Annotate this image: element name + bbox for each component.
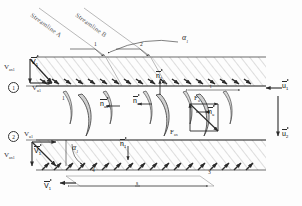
v-ax1-bottom-label: Vax1 [4,152,15,160]
v-u1-top-label: Vu1 [32,85,41,93]
cascade-pitch-construction [66,176,214,186]
force-u-label: Fu [194,95,200,103]
v-ax1-top-label: Vax1 [4,64,15,72]
station-leader-lines [70,49,148,56]
station-marker-1: 1 [8,82,19,93]
alpha1-top-label: α1 [182,34,188,44]
blade-number-1-label: 1 [62,96,65,102]
v-u1-bottom-label: Vu1 [24,131,33,139]
diagram-vector-layer [0,0,302,206]
pitch-s-label: s [136,181,138,187]
station-marker-2: 2 [8,131,19,142]
n-ax-label: nax [100,100,108,109]
blade-speed-vectors [266,88,282,136]
diagram-canvas: Streamline A Streamline B 1 2 α1 1 2 Vax… [0,0,302,206]
v1-outlet-label: V1 [44,182,51,191]
alpha1-angle-arc-top [110,40,178,52]
blade-speed-u2-label: u2 [282,130,288,139]
n-u-right-label: nu [208,108,214,117]
chord-t-label: t [210,84,212,90]
n1-bottom-label: n1 [120,140,126,149]
v1-top-label: V1 [31,58,38,67]
blade-speed-u1-label: u1 [282,82,288,91]
alpha1-bottom-label: α1 [72,144,78,154]
station-2-top-label: 2 [140,42,143,48]
station-3-label: 3 [208,170,211,176]
station-1-top-label: 1 [94,42,97,48]
v1-bottom-label: V1 [34,147,41,156]
station-4-label: 4 [92,168,95,174]
n-u-label: nu [133,97,139,106]
force-ax-label: Fax [170,129,178,137]
n1-top-label: n1 [156,72,162,81]
